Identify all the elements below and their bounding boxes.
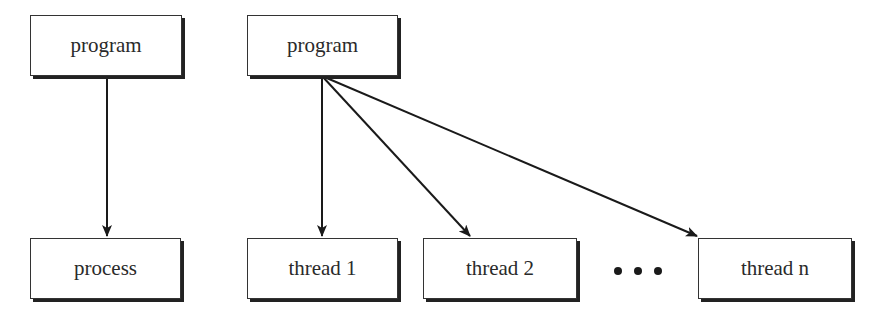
program-box-left: program xyxy=(30,15,182,76)
arrow-program-to-thread-2 xyxy=(322,76,470,236)
thread-2-label: thread 2 xyxy=(466,256,534,281)
thread-n-label: thread n xyxy=(741,256,809,281)
thread-1-label: thread 1 xyxy=(288,256,356,281)
program-label-left: program xyxy=(70,33,141,58)
process-label: process xyxy=(74,256,137,281)
thread-2-box: thread 2 xyxy=(423,238,577,299)
ellipsis-dot xyxy=(614,267,622,275)
thread-1-box: thread 1 xyxy=(247,238,398,299)
ellipsis-dot xyxy=(654,267,662,275)
arrow-program-to-thread-n xyxy=(322,76,697,236)
thread-n-box: thread n xyxy=(698,238,852,299)
program-label-right: program xyxy=(287,33,358,58)
ellipsis-dots xyxy=(614,267,662,275)
process-box: process xyxy=(30,238,181,299)
program-box-right: program xyxy=(247,15,398,76)
ellipsis-dot xyxy=(634,267,642,275)
